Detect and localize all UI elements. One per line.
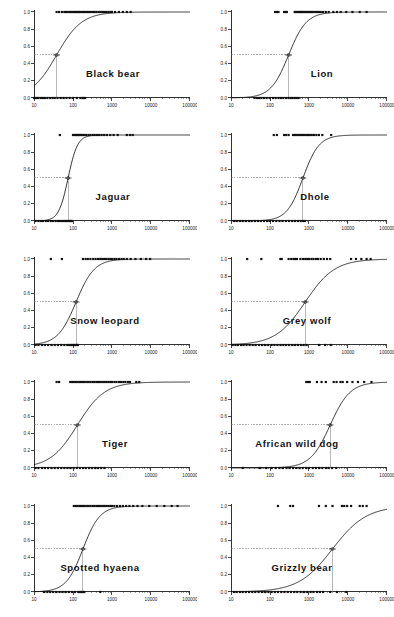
y-tick-label: 0.8 [24,27,31,32]
x-tick-label: 100000 [379,596,394,601]
data-point [277,504,279,506]
x-tick-label: 10000 [342,103,355,108]
data-point [103,134,105,136]
x-tick-label: 10000 [145,596,158,601]
data-point [282,344,284,346]
x-tick-label: 10000 [145,226,158,231]
data-point [113,504,115,506]
data-point [89,134,91,136]
data-point [332,11,334,13]
data-point [69,381,71,383]
panel-spotted-hyaena: 0.00.20.40.60.81.010100100010000100000Sp… [0,494,197,617]
x-tick-label: 1000 [107,596,118,601]
data-point [71,590,73,592]
data-point [258,590,260,592]
data-point [44,344,46,346]
y-tick-label: 0.0 [24,96,31,101]
data-point [321,467,323,469]
data-point [65,590,67,592]
data-point [99,504,101,506]
ed50-guides [231,177,306,221]
data-point [49,97,51,99]
data-point [360,258,362,260]
data-point [97,258,99,260]
data-point [236,220,238,222]
data-point [285,134,287,136]
data-point [80,381,82,383]
data-point [292,467,294,469]
y-tick-label: 0.8 [221,150,228,155]
data-point [171,504,173,506]
data-point [317,258,319,260]
data-point [234,344,236,346]
data-point [245,590,247,592]
data-point [242,220,244,222]
panel-grid: 0.00.20.40.60.81.010100100010000100000Bl… [0,0,394,617]
x-tick-label: 100 [69,349,77,354]
y-tick-label: 0.4 [221,61,228,66]
y-tick-label: 0.6 [221,414,228,419]
data-point [285,467,287,469]
data-points [233,504,368,592]
data-point [59,220,61,222]
data-point [126,11,128,13]
y-tick-label: 0.8 [221,520,228,525]
x-tick-label: 1000 [304,103,315,108]
x-tick-label: 10000 [342,473,355,478]
data-point [340,11,342,13]
data-point [100,467,102,469]
data-point [79,467,81,469]
data-point [82,258,84,260]
panel-black-bear: 0.00.20.40.60.81.010100100010000100000Bl… [0,0,197,123]
data-point [148,504,150,506]
data-point [359,11,361,13]
x-tick-label: 100 [266,226,274,231]
data-point [350,504,352,506]
data-point [318,134,320,136]
data-point [89,381,91,383]
data-point [58,590,60,592]
data-point [43,590,45,592]
data-point [94,467,96,469]
data-point [366,504,368,506]
y-tick-label: 0.2 [221,325,228,330]
data-point [40,220,42,222]
data-point [97,504,99,506]
data-point [246,258,248,260]
data-point [105,11,107,13]
data-point [320,381,322,383]
data-point [103,467,105,469]
data-point [107,258,109,260]
data-point [248,590,250,592]
axes: 0.00.20.40.60.81.010100100010000100000 [24,10,197,108]
y-tick-label: 1.0 [24,10,31,15]
data-point [129,381,131,383]
data-point [105,381,107,383]
logistic-curve [34,12,190,86]
data-point [57,344,59,346]
data-point [330,344,332,346]
data-point [103,11,105,13]
data-point [40,97,42,99]
data-point [359,504,361,506]
y-tick-label: 0.2 [221,572,228,577]
x-tick-label: 1000 [304,473,315,478]
data-point [72,97,74,99]
data-point [305,381,307,383]
ed50-guides [231,53,292,97]
data-point [303,344,305,346]
x-tick-label: 10 [31,349,37,354]
data-point [292,504,294,506]
data-point [370,381,372,383]
data-point [288,344,290,346]
data-point [285,344,287,346]
data-point [245,344,247,346]
data-point [41,467,43,469]
data-point [47,344,49,346]
data-point [93,381,95,383]
x-tick-label: 100000 [182,349,197,354]
x-tick-label: 10000 [342,596,355,601]
data-point [60,467,62,469]
data-point [308,258,310,260]
data-point [52,590,54,592]
